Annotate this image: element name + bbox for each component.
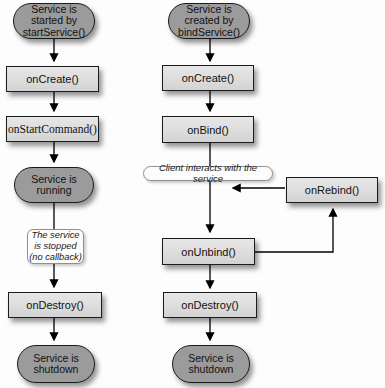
onbind-callback: onBind() [162,116,254,143]
shutdown-state-right: Service is shutdown [172,345,250,383]
onrebind-callback: onRebind() [286,177,378,203]
stopped-note: The service is stopped (no callback) [27,229,84,264]
shutdown-state-left: Service is shutdown [17,345,95,383]
started-start-state: Service is started by startService() [13,3,95,39]
oncreate-callback-right: onCreate() [162,65,254,91]
ondestroy-callback-left: onDestroy() [8,292,102,318]
ondestroy-callback-right: onDestroy() [163,292,257,318]
arrow-onunbind-to-onrebind [255,209,333,252]
bound-start-state: Service is created by bindService() [168,3,250,39]
client-interacts-note: Client interacts with the service [143,166,273,181]
oncreate-callback-left: onCreate() [6,66,99,92]
service-lifecycle-diagram: Service is started by startService() onC… [0,0,385,388]
running-state: Service is running [14,167,94,203]
onstartcommand-callback: onStartCommand() [6,116,99,142]
onunbind-callback: onUnbind() [162,238,255,265]
